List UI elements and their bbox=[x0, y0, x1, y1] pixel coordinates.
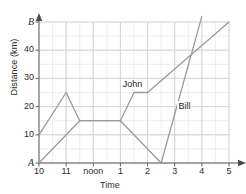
plot-area bbox=[0, 0, 246, 194]
x-tick-label-3: 3 bbox=[172, 166, 177, 176]
y-axis-arrow-icon bbox=[36, 13, 42, 21]
series-line-bill-steep-segment bbox=[161, 16, 202, 163]
x-tick-label-5: 5 bbox=[226, 166, 231, 176]
y-tick-label-b: B bbox=[12, 16, 34, 27]
y-tick-label-30: 30 bbox=[12, 72, 34, 82]
y-tick-label-10: 10 bbox=[12, 129, 34, 139]
series-label-john: John bbox=[122, 79, 144, 89]
x-tick-label-4: 4 bbox=[199, 166, 204, 176]
y-tick-label-20: 20 bbox=[12, 101, 34, 111]
y-tick-label-a: A bbox=[12, 157, 34, 168]
x-axis-title: Time bbox=[100, 180, 120, 190]
series-line-john bbox=[39, 93, 161, 164]
y-axis-title: Distance (km) bbox=[9, 29, 19, 105]
series-label-bill: Bill bbox=[177, 101, 191, 111]
x-tick-label-noon: noon bbox=[83, 166, 103, 176]
y-tick-label-40: 40 bbox=[12, 44, 34, 54]
x-axis-arrow-icon bbox=[238, 160, 246, 166]
x-tick-label-2: 2 bbox=[145, 166, 150, 176]
x-tick-label-1: 1 bbox=[118, 166, 123, 176]
chart-container: Distance (km) Time A10203040B 1011noon12… bbox=[0, 0, 246, 194]
x-tick-label-10: 10 bbox=[34, 166, 44, 176]
x-tick-label-11: 11 bbox=[61, 166, 70, 176]
